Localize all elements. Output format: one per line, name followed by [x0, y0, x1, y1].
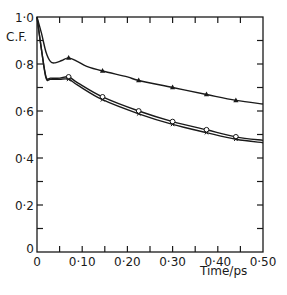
y-tick-label: 0·4	[15, 152, 34, 166]
x-tick-label: 0·20	[114, 255, 141, 269]
x-axis-label: Time/ps	[199, 264, 247, 278]
x-tick-label: 0·30	[159, 255, 186, 269]
y-tick-label: 0·8	[15, 58, 34, 72]
x-tick-label: 0·10	[69, 255, 96, 269]
y-tick-label: 0·2	[15, 199, 34, 213]
x-tick-label: 0·50	[250, 255, 277, 269]
series-line	[37, 17, 263, 143]
plot-border	[37, 17, 263, 252]
data-series	[37, 17, 263, 143]
y-tick-label: 0·6	[15, 105, 34, 119]
y-tick-label: 1·0	[15, 11, 34, 25]
plot-frame	[37, 17, 263, 252]
series-triangle	[37, 17, 263, 104]
triangle-marker-icon	[66, 55, 71, 60]
series-cross	[37, 17, 263, 143]
line-chart: 00·100·200·300·400·5000·20·40·60·81·0 C.…	[0, 0, 287, 295]
axis-ticks	[37, 17, 263, 252]
series-line	[37, 17, 263, 104]
y-axis-label: C.F.	[6, 30, 27, 44]
y-tick-label: 0	[26, 242, 34, 256]
series-open-circle	[37, 17, 263, 140]
x-tick-label: 0	[33, 255, 41, 269]
